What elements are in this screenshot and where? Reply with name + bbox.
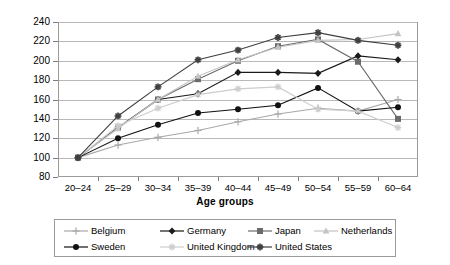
x-axis-tick-label: 25–29 bbox=[105, 182, 131, 193]
legend-item-japan[interactable]: Japan bbox=[247, 225, 301, 237]
y-axis-tick bbox=[53, 100, 58, 101]
legend-marker-triangle-icon bbox=[313, 225, 339, 237]
x-axis-tick-label: 50–54 bbox=[305, 182, 331, 193]
x-axis-tick-label: 35–39 bbox=[185, 182, 211, 193]
data-point-circle bbox=[195, 110, 201, 116]
data-point-cross bbox=[195, 56, 202, 63]
data-point-star bbox=[355, 108, 362, 115]
data-point-star bbox=[275, 84, 282, 91]
legend-marker-diamond-icon bbox=[159, 225, 185, 237]
y-axis-tick-label: 200 bbox=[33, 56, 50, 66]
data-point-diamond bbox=[235, 69, 242, 76]
data-point-circle bbox=[115, 135, 121, 141]
x-axis-tick bbox=[98, 177, 99, 181]
data-point-circle bbox=[73, 244, 79, 250]
legend-label: Belgium bbox=[89, 226, 125, 236]
legend-item-sweden[interactable]: Sweden bbox=[63, 241, 125, 253]
chart-legend: BelgiumGermanyJapanNetherlandsSwedenUnit… bbox=[54, 219, 396, 257]
chart-series-layer bbox=[58, 22, 418, 177]
x-axis-tick-label: 45–49 bbox=[265, 182, 291, 193]
chart-container: 24022020018016014012010080 20–2425–2930–… bbox=[0, 0, 450, 265]
legend-label: Sweden bbox=[89, 242, 125, 252]
series-japan bbox=[75, 36, 401, 160]
x-axis-tick bbox=[258, 177, 259, 181]
legend-label: Germany bbox=[185, 226, 226, 236]
legend-item-united-states[interactable]: United States bbox=[247, 241, 332, 253]
y-axis-tick-label: 100 bbox=[33, 153, 50, 163]
x-axis-tick bbox=[378, 177, 379, 181]
y-axis-tick bbox=[53, 158, 58, 159]
data-point-circle bbox=[315, 85, 321, 91]
data-point-star bbox=[235, 85, 242, 92]
y-axis-tick bbox=[53, 138, 58, 139]
data-point-triangle bbox=[395, 30, 402, 36]
data-point-cross bbox=[155, 84, 162, 91]
y-axis-labels: 24022020018016014012010080 bbox=[0, 22, 54, 177]
legend-item-belgium[interactable]: Belgium bbox=[63, 225, 125, 237]
y-axis-tick bbox=[53, 41, 58, 42]
y-axis-tick-label: 120 bbox=[33, 133, 50, 143]
data-point-star bbox=[169, 244, 176, 251]
data-point-square bbox=[395, 116, 401, 122]
data-point-diamond bbox=[315, 70, 322, 77]
legend-item-united-kingdom[interactable]: United Kingdom bbox=[159, 241, 255, 253]
x-axis-tick bbox=[178, 177, 179, 181]
data-point-plus bbox=[72, 227, 79, 234]
data-point-circle bbox=[235, 106, 241, 112]
y-axis-tick bbox=[53, 80, 58, 81]
legend-marker-circle-icon bbox=[63, 241, 89, 253]
y-axis-tick-label: 240 bbox=[33, 17, 50, 27]
data-point-star bbox=[115, 122, 122, 129]
series-belgium bbox=[74, 96, 401, 161]
legend-item-germany[interactable]: Germany bbox=[159, 225, 226, 237]
x-axis-tick-label: 30–34 bbox=[145, 182, 171, 193]
y-axis-tick bbox=[53, 119, 58, 120]
legend-item-netherlands[interactable]: Netherlands bbox=[313, 225, 392, 237]
data-point-star bbox=[315, 106, 322, 113]
x-axis-tick bbox=[338, 177, 339, 181]
data-point-cross bbox=[355, 37, 362, 44]
data-point-square bbox=[355, 59, 361, 65]
x-axis-tick-label: 60–64 bbox=[385, 182, 411, 193]
data-point-cross bbox=[257, 244, 264, 251]
y-axis-tick-label: 140 bbox=[33, 114, 50, 124]
x-axis-tick bbox=[218, 177, 219, 181]
y-axis-tick-label: 180 bbox=[33, 75, 50, 85]
y-axis-tick bbox=[53, 22, 58, 23]
x-axis-tick-label: 20–24 bbox=[65, 182, 91, 193]
y-axis-tick bbox=[53, 177, 58, 178]
data-point-cross bbox=[235, 47, 242, 54]
data-point-diamond bbox=[275, 69, 282, 76]
x-axis-tick bbox=[138, 177, 139, 181]
x-axis-tick bbox=[298, 177, 299, 181]
data-point-plus bbox=[234, 118, 241, 125]
data-point-plus bbox=[394, 96, 401, 103]
y-axis-tick-label: 80 bbox=[39, 172, 50, 182]
legend-marker-cross-icon bbox=[247, 241, 273, 253]
legend-marker-star-icon bbox=[159, 241, 185, 253]
data-point-star bbox=[195, 91, 202, 98]
legend-label: United States bbox=[273, 242, 332, 252]
data-point-plus bbox=[154, 134, 161, 141]
data-point-plus bbox=[194, 127, 201, 134]
data-point-square bbox=[257, 228, 263, 234]
x-axis-tick-label: 40–44 bbox=[225, 182, 251, 193]
data-point-diamond bbox=[169, 227, 176, 234]
legend-marker-square-icon bbox=[247, 225, 273, 237]
series-united-states bbox=[75, 29, 402, 161]
x-axis-title: Age groups bbox=[0, 196, 450, 207]
y-axis-tick bbox=[53, 61, 58, 62]
data-point-cross bbox=[315, 29, 322, 36]
data-point-cross bbox=[275, 34, 282, 41]
data-point-diamond bbox=[395, 56, 402, 63]
legend-label: United Kingdom bbox=[185, 242, 255, 252]
y-axis-tick-label: 160 bbox=[33, 95, 50, 105]
data-point-circle bbox=[395, 104, 401, 110]
data-point-cross bbox=[115, 113, 122, 120]
legend-label: Japan bbox=[273, 226, 301, 236]
x-axis-labels: 20–2425–2930–3435–3940–4445–4950–5455–59… bbox=[58, 182, 418, 196]
y-axis-tick-label: 220 bbox=[33, 36, 50, 46]
legend-label: Netherlands bbox=[339, 226, 392, 236]
data-point-circle bbox=[275, 102, 281, 108]
data-point-star bbox=[155, 105, 162, 112]
